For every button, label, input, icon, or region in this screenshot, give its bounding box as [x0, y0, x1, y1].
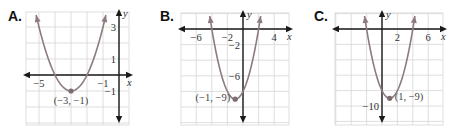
x-axis-arrow-left-icon	[178, 26, 185, 32]
y-axis-label: y	[122, 8, 128, 19]
grid	[335, 13, 443, 125]
y-tick-label: −2	[229, 40, 240, 51]
quadratic-graphs-figure: A.xy−5−131−1(−3, −1) B.xy−6−24−2−6(−1, −…	[0, 0, 456, 133]
x-tick-label: −5	[33, 78, 44, 89]
x-axis-label: x	[440, 31, 446, 42]
y-axis-arrow-down-icon	[116, 116, 122, 123]
x-axis-label: x	[286, 31, 292, 42]
y-tick-label: −10	[363, 101, 379, 112]
y-axis-arrow-up-icon	[116, 9, 122, 16]
y-tick-label: −6	[229, 71, 240, 82]
y-tick-label: 3	[111, 22, 116, 33]
y-tick-label: −1	[105, 86, 116, 97]
graph-panel-c: C.xy26−10(1, −9)	[314, 8, 447, 125]
vertex-point	[68, 88, 73, 93]
y-axis-label: y	[246, 9, 252, 20]
vertex-point	[233, 97, 238, 102]
y-axis-arrow-down-icon	[379, 116, 385, 123]
grid	[181, 13, 289, 125]
curve-arrow-icon	[208, 16, 214, 23]
curve-arrow-icon	[257, 16, 263, 23]
vertex-point	[387, 96, 392, 101]
graph-panel-b: B.xy−6−24−2−6(−1, −9)	[160, 8, 293, 125]
curve-arrow-icon	[363, 16, 369, 23]
curve-arrow-icon	[411, 16, 417, 23]
panel-letter: B.	[160, 8, 174, 24]
vertex-label: (−3, −1)	[54, 95, 89, 107]
x-axis-label: x	[126, 77, 132, 88]
x-tick-label: 2	[395, 32, 400, 43]
y-tick-label: 1	[111, 54, 116, 65]
x-tick-label: −6	[191, 32, 202, 43]
y-axis-arrow-down-icon	[240, 116, 246, 123]
vertex-label: (−1, −9)	[196, 92, 231, 104]
tick-labels: −6−24−2−6	[191, 32, 278, 82]
x-tick-label: 6	[426, 32, 431, 43]
x-axis-arrow-left-icon	[23, 72, 30, 78]
tick-labels: −5−131−1	[33, 22, 116, 97]
vertex-label: (1, −9)	[395, 91, 424, 103]
panel-letter: C.	[314, 8, 328, 24]
graph-panel-a: A.xy−5−131−1(−3, −1)	[8, 8, 133, 125]
y-axis-label: y	[385, 9, 391, 20]
panel-letter: A.	[8, 8, 22, 24]
axes: xy	[178, 9, 293, 123]
x-tick-label: 4	[272, 32, 278, 43]
